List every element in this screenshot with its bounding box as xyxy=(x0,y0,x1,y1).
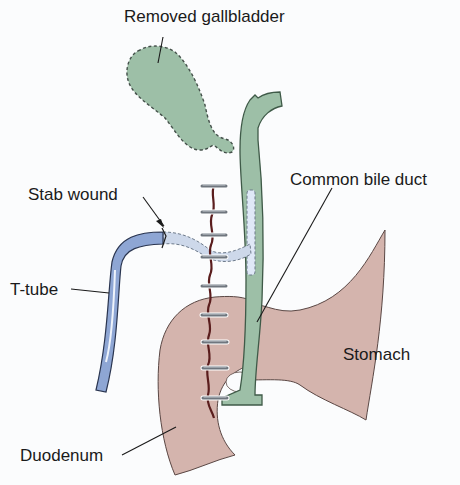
label-bile-duct: Common bile duct xyxy=(290,170,427,189)
t-tube-diagram: Removed gallbladder Common bile duct Sta… xyxy=(0,0,460,485)
diagram-canvas: Removed gallbladder Common bile duct Sta… xyxy=(0,0,460,485)
label-stomach: Stomach xyxy=(343,345,410,364)
label-duodenum: Duodenum xyxy=(20,446,103,465)
stomach-shape xyxy=(245,230,385,420)
sutures xyxy=(202,186,227,398)
gallbladder-shape xyxy=(127,46,234,153)
label-stab-wound: Stab wound xyxy=(28,185,118,204)
label-t-tube: T-tube xyxy=(10,280,58,299)
label-gallbladder: Removed gallbladder xyxy=(124,7,285,26)
t-tube-shape xyxy=(96,232,163,392)
t-tube-inside-duct xyxy=(247,190,255,275)
